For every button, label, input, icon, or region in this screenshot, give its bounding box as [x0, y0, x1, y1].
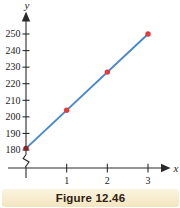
- y-tick-label: 250: [6, 28, 21, 39]
- data-point: [64, 108, 69, 113]
- data-point: [145, 31, 150, 36]
- y-axis-arrow: [22, 12, 30, 22]
- y-tick-label: 200: [6, 111, 21, 122]
- figure-caption: Figure 12.46: [2, 189, 179, 207]
- x-tick-label: 3: [146, 175, 151, 186]
- y-axis-label: y: [24, 0, 30, 11]
- scatter-chart: xy180190200210220230240250123: [0, 0, 180, 190]
- y-tick-label: 180: [6, 144, 21, 155]
- y-tick-label: 210: [6, 95, 21, 106]
- y-tick-label: 190: [6, 128, 21, 139]
- y-tick-label: 230: [6, 61, 21, 72]
- data-point: [23, 146, 28, 151]
- y-tick-label: 220: [6, 78, 21, 89]
- x-tick-label: 2: [105, 175, 110, 186]
- trend-line: [26, 34, 148, 148]
- textbook-figure: xy180190200210220230240250123 Figure 12.…: [0, 0, 180, 208]
- x-tick-label: 1: [64, 175, 69, 186]
- data-point: [105, 69, 110, 74]
- y-tick-label: 240: [6, 45, 21, 56]
- x-axis-arrow: [161, 164, 171, 172]
- x-axis-label: x: [173, 162, 179, 174]
